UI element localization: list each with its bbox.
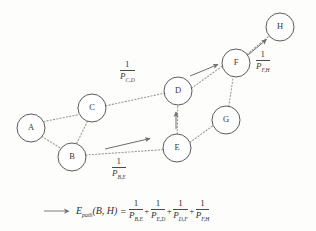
label-cd-numerator: 1: [120, 60, 135, 70]
formula-plus-2: +: [167, 206, 172, 216]
formula-plus-1: +: [144, 206, 149, 216]
edge-B-E: [86, 150, 163, 155]
path-energy-formula: Epath(B, H) = 1 PB,E + 1 PE,D + 1 PD,F +…: [44, 194, 209, 228]
label-fh-denominator: PF,H: [256, 62, 270, 74]
node-H-label: H: [277, 21, 283, 31]
node-A-label: A: [28, 122, 35, 132]
formula-arrow-icon: [44, 206, 70, 216]
node-F[interactable]: F: [222, 49, 250, 77]
arrow-b-e: [105, 139, 150, 150]
formula-term-2: 1 PE,D: [151, 199, 165, 222]
arrow-d-f: [190, 65, 218, 77]
edge-E-D: [177, 105, 178, 134]
node-G[interactable]: G: [212, 106, 240, 134]
formula-term-3: 1 PD,F: [173, 199, 187, 222]
edge-A-C: [44, 115, 80, 122]
formula-term-1: 1 PB,E: [129, 199, 143, 222]
node-G-label: G: [223, 114, 229, 124]
node-E-label: E: [174, 142, 179, 152]
node-H[interactable]: H: [266, 13, 294, 41]
edge-C-B: [77, 121, 88, 143]
edge-A-B: [42, 137, 61, 149]
edge-C-D: [106, 93, 164, 106]
label-cd: 1 PC,D: [120, 60, 135, 83]
label-cd-denominator: PC,D: [120, 72, 135, 84]
figure-canvas: A B C D E F G: [0, 0, 316, 231]
label-be-numerator: 1: [112, 157, 126, 167]
formula-lhs: Epath(B, H): [76, 205, 117, 218]
node-D[interactable]: D: [164, 77, 192, 105]
node-E[interactable]: E: [163, 134, 191, 162]
edge-G-F: [229, 77, 233, 106]
formula-term-4: 1 PF,H: [196, 199, 210, 222]
label-fh-numerator: 1: [256, 50, 270, 60]
label-be: 1 PB,E: [112, 157, 126, 180]
formula-plus-3: +: [189, 206, 194, 216]
node-F-label: F: [234, 57, 239, 67]
formula-equals: =: [120, 206, 126, 217]
node-C[interactable]: C: [78, 94, 106, 122]
label-be-denominator: PB,E: [112, 169, 126, 181]
node-D-label: D: [175, 85, 181, 95]
node-A[interactable]: A: [17, 114, 45, 142]
label-fh: 1 PF,H: [256, 50, 270, 73]
node-B[interactable]: B: [58, 143, 86, 171]
node-B-label: B: [69, 151, 75, 161]
node-C-label: C: [89, 102, 95, 112]
edge-E-G: [190, 126, 213, 143]
